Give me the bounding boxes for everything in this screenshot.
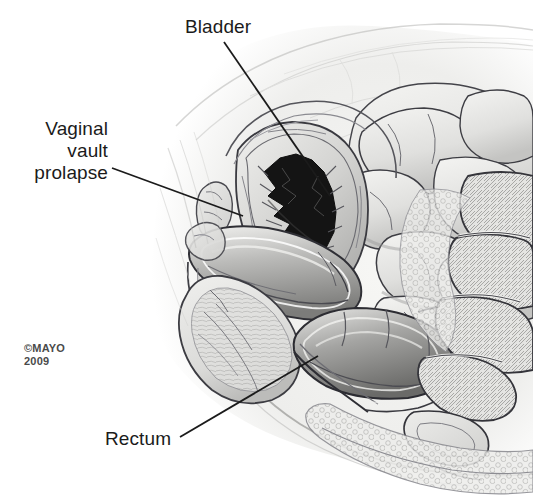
- label-vaginal-vault-prolapse: Vaginal vault prolapse: [8, 118, 108, 184]
- label-bladder: Bladder: [185, 16, 251, 38]
- anatomy-illustration: [0, 0, 533, 499]
- copyright-notice: ©MAYO 2009: [24, 342, 65, 368]
- label-rectum: Rectum: [105, 428, 171, 450]
- medical-illustration-figure: Bladder Vaginal vault prolapse Rectum ©M…: [0, 0, 533, 499]
